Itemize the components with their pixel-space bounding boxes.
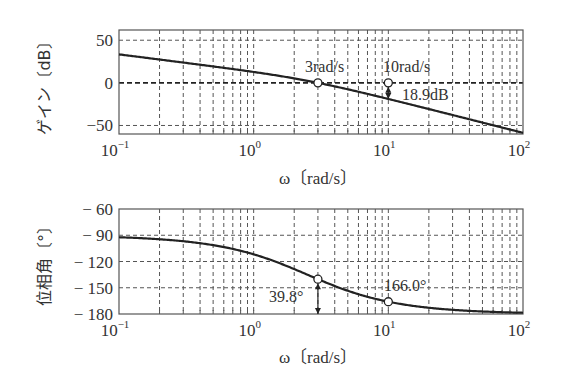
y-tick-label: − 90 [82, 226, 113, 245]
x-tick-label: 102 [508, 138, 531, 160]
marker-point [314, 79, 322, 87]
y-tick-label: 0 [105, 74, 114, 93]
bode-plot: 500−5010−1100101102 − 60− 90− 120− 150− … [0, 0, 567, 384]
x-tick-label: 10−1 [101, 318, 130, 340]
y-tick-label: − 120 [74, 253, 113, 272]
phase-at-10-label: 166.0° [384, 277, 426, 294]
marker-point [314, 275, 322, 283]
phase-axis-label: 位相角〔°〕 [35, 218, 54, 306]
y-tick-label: − 60 [82, 200, 113, 219]
phase-crossover-frequency-label: 10rad/s [383, 58, 430, 75]
marker-point [384, 298, 392, 306]
y-tick-label: 50 [96, 31, 113, 50]
x-tick-label: 101 [373, 318, 396, 340]
crossover-frequency-label: 3rad/s [305, 58, 344, 75]
phase-x-axis-label: ω〔rad/s〕 [279, 348, 357, 367]
phase-margin-label: 39.8° [269, 288, 303, 305]
x-tick-label: 102 [508, 318, 531, 340]
gain-x-axis-label: ω〔rad/s〕 [279, 169, 357, 188]
gain-axis-label: ゲイン〔dB〕 [35, 33, 54, 134]
x-tick-label: 10−1 [101, 138, 130, 160]
marker-point [384, 79, 392, 87]
response-curve [119, 237, 523, 313]
gain-plot: 500−5010−1100101102 [86, 30, 530, 160]
y-tick-label: −50 [86, 116, 113, 135]
gain-margin-label: 18.9dB [402, 86, 449, 103]
x-tick-label: 100 [238, 318, 261, 340]
phase-plot: − 60− 90− 120− 150− 18010−1100101102 [74, 200, 531, 340]
x-tick-label: 101 [373, 138, 396, 160]
y-tick-label: − 150 [74, 279, 113, 298]
x-tick-label: 100 [238, 138, 261, 160]
